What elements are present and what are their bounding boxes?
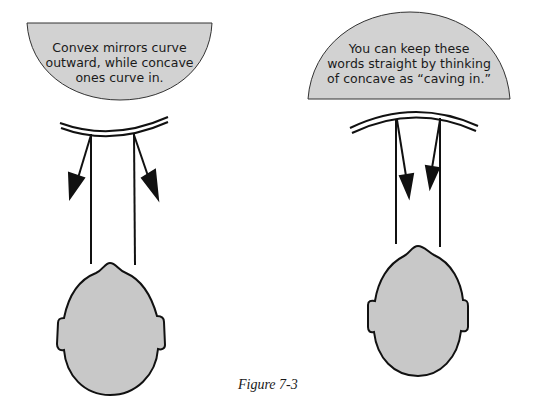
left-incident-rays [91, 133, 135, 265]
convex-mirror-icon [60, 117, 168, 136]
left-reflected-arrows [69, 135, 158, 199]
right-bubble-line-3: of concave as “caving in.” [308, 71, 510, 86]
left-bubble-line-3: ones curve in. [27, 70, 212, 85]
right-reflected-arrows [397, 120, 440, 197]
right-head-top-view-icon [368, 246, 468, 376]
right-bubble-text: You can keep these words straight by thi… [308, 41, 510, 86]
figure-caption: Figure 7-3 [238, 377, 298, 393]
right-bubble-line-1: You can keep these [308, 41, 510, 56]
left-bubble-line-1: Convex mirrors curve [27, 40, 212, 55]
left-bubble-line-2: outward, while concave [27, 55, 212, 70]
left-bubble-text: Convex mirrors curve outward, while conc… [27, 40, 212, 85]
left-head-top-view-icon [57, 263, 165, 395]
figure-7-3: Convex mirrors curve outward, while conc… [0, 0, 538, 412]
right-bubble-line-2: words straight by thinking [308, 56, 510, 71]
concave-mirror-icon [350, 112, 478, 133]
